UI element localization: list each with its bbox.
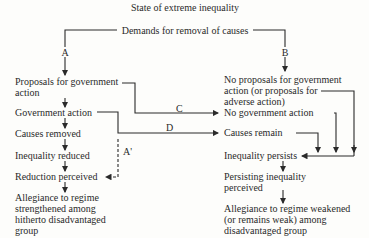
node-government-action: Government action (15, 107, 92, 118)
node-no-proposals: No proposals for government action (or p… (224, 74, 341, 107)
node-allegiance-weakened: Allegiance to regime weakened (or remain… (224, 203, 350, 236)
diagram-title: State of extreme inequality (131, 2, 239, 13)
label-d: D (166, 122, 173, 133)
node-reduction-perceived: Reduction perceived (15, 171, 97, 182)
label-a-prime: A' (123, 146, 132, 157)
node-inequality-persists: Inequality persists (224, 150, 297, 161)
node-persisting-perceived: Persisting inequality perceived (224, 171, 306, 193)
node-causes-remain: Causes remain (224, 127, 283, 138)
node-allegiance-strengthened: Allegiance to regime strengthened among … (15, 192, 106, 236)
inequality-flow-diagram: State of extreme inequality Demands for … (0, 0, 369, 238)
label-c: C (176, 103, 183, 114)
node-inequality-reduced: Inequality reduced (15, 150, 90, 161)
label-b: B (282, 47, 289, 58)
node-no-government-action: No government action (224, 107, 313, 118)
node-demands: Demands for removal of causes (122, 25, 249, 36)
node-causes-removed: Causes removed (15, 128, 81, 139)
label-a: A (61, 47, 68, 58)
node-proposals: Proposals for government action (15, 76, 118, 98)
